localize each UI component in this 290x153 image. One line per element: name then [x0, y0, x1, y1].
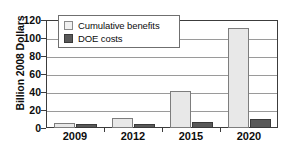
- y-tick-label: 0: [11, 123, 41, 134]
- y-tick-label: 100: [11, 33, 41, 44]
- dark-square-swatch-icon: [64, 34, 73, 43]
- x-tick-label: 2012: [103, 131, 163, 142]
- chart-legend: Cumulative benefits DOE costs: [58, 15, 180, 48]
- x-tick-mark: [220, 128, 221, 132]
- y-tick-label: 60: [11, 69, 41, 80]
- x-tick-mark: [104, 128, 105, 132]
- bar: [228, 28, 249, 128]
- y-tick-label: 120: [11, 15, 41, 26]
- bar: [112, 118, 133, 128]
- legend-item-doe-costs: DOE costs: [64, 32, 175, 45]
- legend-label: DOE costs: [78, 33, 123, 44]
- x-tick-label: 2015: [161, 131, 221, 142]
- legend-label: Cumulative benefits: [78, 20, 160, 31]
- y-tick-label: 40: [11, 87, 41, 98]
- x-tick-label: 2009: [45, 131, 105, 142]
- bar: [170, 91, 191, 128]
- bar: [250, 119, 271, 128]
- bar: [134, 124, 155, 128]
- bar: [54, 123, 75, 128]
- legend-item-cumulative-benefits: Cumulative benefits: [64, 19, 175, 32]
- y-tick-label: 80: [11, 51, 41, 62]
- bar: [76, 124, 97, 128]
- y-tick-label: 20: [11, 105, 41, 116]
- light-square-swatch-icon: [64, 21, 73, 30]
- x-tick-label: 2020: [219, 131, 279, 142]
- x-tick-mark: [162, 128, 163, 132]
- bar-group: [220, 20, 278, 128]
- bar-chart: Billion 2008 Dollars 020406080100120 200…: [0, 0, 290, 153]
- bar: [192, 122, 213, 128]
